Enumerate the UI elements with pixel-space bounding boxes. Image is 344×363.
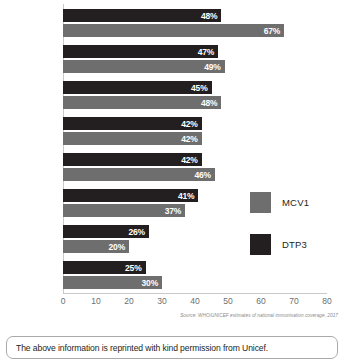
bar-dtp3: 47% bbox=[63, 45, 218, 58]
source-note: Source: WHO/UNICEF estimates of national… bbox=[180, 313, 338, 318]
bar-value-label: 46% bbox=[194, 170, 214, 180]
bar-mcv1: 30% bbox=[63, 276, 162, 289]
bar-row: 48% bbox=[63, 9, 327, 22]
bar-mcv1: 20% bbox=[63, 240, 129, 253]
bar-group: Syrian Arab Republic48%67% bbox=[63, 9, 327, 39]
bar-value-label: 37% bbox=[165, 206, 185, 216]
bar-dtp3: 26% bbox=[63, 225, 149, 238]
bar-value-label: 48% bbox=[201, 98, 221, 108]
bar-row: 47% bbox=[63, 45, 327, 58]
bar-mcv1: 67% bbox=[63, 24, 284, 37]
x-axis-tick: 60 bbox=[256, 296, 265, 306]
bar-value-label: 20% bbox=[109, 242, 129, 252]
legend-swatch bbox=[250, 234, 271, 255]
permission-notice-text: The above information is reprinted with … bbox=[16, 343, 268, 353]
bar-row: 46% bbox=[63, 168, 327, 181]
x-axis-tick: 40 bbox=[190, 296, 199, 306]
bar-value-label: 45% bbox=[191, 83, 211, 93]
bar-mcv1: 42% bbox=[63, 132, 202, 145]
bar-value-label: 67% bbox=[264, 26, 284, 36]
bar-mcv1: 37% bbox=[63, 204, 185, 217]
x-axis-tick: 70 bbox=[289, 296, 298, 306]
bar-mcv1: 46% bbox=[63, 168, 215, 181]
bar-group: Guinea45%48% bbox=[63, 81, 327, 111]
bar-dtp3: 42% bbox=[63, 153, 202, 166]
bar-value-label: 25% bbox=[125, 263, 145, 273]
bar-row: 42% bbox=[63, 153, 327, 166]
bar-dtp3: 41% bbox=[63, 189, 198, 202]
chart-legend: MCV1DTP3 bbox=[250, 192, 309, 276]
bar-row: 49% bbox=[63, 60, 327, 73]
bar-row: 30% bbox=[63, 276, 327, 289]
bar-row: 42% bbox=[63, 132, 327, 145]
bar-group: Nigeria42%42% bbox=[63, 117, 327, 147]
bar-value-label: 41% bbox=[178, 191, 198, 201]
x-axis-tick: 50 bbox=[223, 296, 232, 306]
bar-row: 42% bbox=[63, 117, 327, 130]
bar-value-label: 49% bbox=[204, 62, 224, 72]
bar-value-label: 26% bbox=[128, 227, 148, 237]
bar-row: 48% bbox=[63, 96, 327, 109]
bar-value-label: 42% bbox=[181, 134, 201, 144]
x-axis-tick: 20 bbox=[124, 296, 133, 306]
permission-notice-box: The above information is reprinted with … bbox=[6, 336, 338, 359]
legend-label: MCV1 bbox=[282, 197, 309, 208]
immunisation-coverage-chart: Syrian Arab Republic48%67%Central Africa… bbox=[0, 0, 344, 300]
legend-item-dtp3: DTP3 bbox=[250, 234, 309, 255]
x-axis-tick: 30 bbox=[157, 296, 166, 306]
bar-group: Central African Republic47%49% bbox=[63, 45, 327, 75]
legend-item-mcv1: MCV1 bbox=[250, 192, 309, 213]
bar-row: 45% bbox=[63, 81, 327, 94]
bar-value-label: 42% bbox=[181, 119, 201, 129]
bar-dtp3: 48% bbox=[63, 9, 221, 22]
legend-swatch bbox=[250, 192, 271, 213]
bar-mcv1: 49% bbox=[63, 60, 225, 73]
bar-mcv1: 48% bbox=[63, 96, 221, 109]
x-axis: 01020304050607080 bbox=[63, 293, 327, 311]
bar-value-label: 42% bbox=[181, 155, 201, 165]
x-axis-tick: 80 bbox=[322, 296, 331, 306]
x-axis-rule bbox=[63, 293, 327, 294]
bar-row: 67% bbox=[63, 24, 327, 37]
bar-dtp3: 25% bbox=[63, 261, 146, 274]
legend-label: DTP3 bbox=[282, 239, 307, 250]
bar-value-label: 47% bbox=[198, 47, 218, 57]
bar-value-label: 48% bbox=[201, 11, 221, 21]
bar-value-label: 30% bbox=[142, 278, 162, 288]
bar-dtp3: 42% bbox=[63, 117, 202, 130]
bar-group: Somalia42%46% bbox=[63, 153, 327, 183]
x-axis-tick: 10 bbox=[91, 296, 100, 306]
x-axis-tick: 0 bbox=[61, 296, 66, 306]
bar-dtp3: 45% bbox=[63, 81, 212, 94]
